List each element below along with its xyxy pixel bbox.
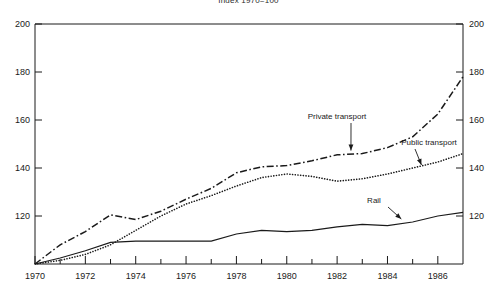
y-axis-labels-right: 200 180 160 140 120 [469,19,484,221]
annotation-label-public-transport: Public transport [401,138,457,147]
annotation-label-rail: Rail [367,196,381,205]
x-tick-label-1984: 1984 [377,271,397,281]
y-axis-labels-left: 200 180 160 140 120 [15,19,30,221]
y-tick-right-140: 140 [469,163,484,173]
annotation-arrow-private-transport [349,145,354,151]
x-tick-label-1976: 1976 [176,271,196,281]
y-axis-ticks-left [35,24,42,216]
x-tick-label-1980: 1980 [277,271,297,281]
y-tick-right-180: 180 [469,67,484,77]
chart-container: Index 1970=100 200 180 160 140 120 [0,0,497,292]
series-rail [35,212,463,264]
plot-frame [35,24,463,264]
y-tick-left-180: 180 [15,67,30,77]
x-tick-label-1978: 1978 [226,271,246,281]
x-tick-label-1986: 1986 [428,271,448,281]
x-tick-label-1982: 1982 [327,271,347,281]
annotation-label-private-transport: Private transport [308,112,367,121]
chart-plot-area: 200 180 160 140 120 200 180 160 140 120 … [0,0,497,292]
y-tick-left-160: 160 [15,115,30,125]
x-tick-label-1974: 1974 [126,271,146,281]
annotation-arrow-public-transport [417,159,421,165]
y-tick-left-200: 200 [15,19,30,29]
y-tick-right-120: 120 [469,211,484,221]
y-tick-right-200: 200 [469,19,484,29]
y-tick-left-140: 140 [15,163,30,173]
chart-series-group [35,77,463,264]
y-axis-ticks-right [456,24,463,216]
series-public-transport [35,154,463,264]
y-tick-right-160: 160 [469,115,484,125]
y-tick-left-120: 120 [15,211,30,221]
x-tick-label-1972: 1972 [75,271,95,281]
series-private-transport [35,77,463,264]
chart-annotations: Private transportPublic transportRail [308,112,458,219]
x-axis: 197019721974197619781980198219841986 [25,256,448,281]
x-tick-label-1970: 1970 [25,271,45,281]
